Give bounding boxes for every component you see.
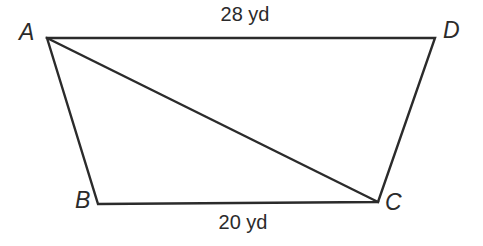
quadrilateral-outline-path — [47, 38, 435, 204]
edge-length-label-bc: 20 yd — [184, 212, 302, 232]
vertex-label-a: A — [19, 21, 34, 44]
vertex-label-c: C — [385, 191, 402, 214]
edge-length-label-ad: 28 yd — [186, 4, 304, 24]
quadrilateral-diagram — [0, 0, 483, 246]
vertex-label-d: D — [443, 19, 460, 42]
vertex-label-b: B — [75, 189, 90, 212]
diagonal-segment-ac — [47, 38, 378, 202]
geometry-figure-canvas: A B C D 28 yd 20 yd — [0, 0, 483, 246]
